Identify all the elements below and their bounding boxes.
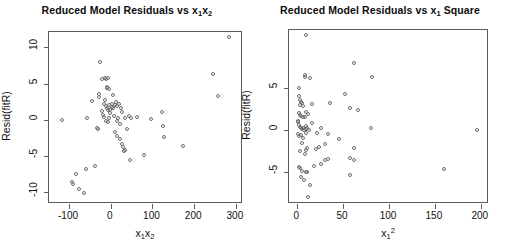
data-point	[303, 152, 307, 156]
y-tick-mark	[284, 88, 289, 89]
data-point	[123, 148, 127, 152]
data-point	[60, 118, 64, 122]
y-tick-label: 10	[28, 34, 39, 56]
x-tick-label: 0	[107, 210, 113, 221]
data-points-left	[49, 32, 241, 202]
panel-left-title-prefix: Reduced Model Residuals vs	[42, 4, 192, 16]
y-tick-mark	[44, 47, 49, 48]
x-tick-mark	[297, 204, 298, 209]
panel-left-title: Reduced Model Residuals vs x1x2	[0, 4, 254, 16]
x-tick-mark	[69, 204, 70, 209]
y-tick-label: 5	[268, 75, 279, 97]
y-tick-mark	[284, 172, 289, 173]
data-point	[181, 144, 185, 148]
data-point	[90, 99, 94, 103]
data-point	[308, 76, 312, 80]
x-tick-mark	[111, 204, 112, 209]
data-point	[118, 137, 122, 141]
x-tick-label: 200	[471, 210, 488, 221]
data-point	[306, 195, 310, 199]
data-point	[314, 147, 318, 151]
data-point	[298, 149, 302, 153]
data-point	[111, 93, 115, 97]
data-point	[356, 108, 360, 112]
data-point	[312, 164, 316, 168]
panel-right-title-sub1: 1	[436, 9, 440, 18]
data-point	[369, 126, 373, 130]
y-tick-mark	[44, 120, 49, 121]
data-point	[326, 132, 330, 136]
y-tick-label: -10	[28, 179, 39, 201]
x-tick-mark	[389, 204, 390, 209]
data-point	[348, 173, 352, 177]
data-point	[317, 145, 321, 149]
data-point	[475, 128, 479, 132]
x-tick-label: 0	[293, 210, 299, 221]
x-tick-label: 200	[185, 210, 202, 221]
data-point	[306, 112, 310, 116]
data-point	[128, 158, 132, 162]
data-point	[84, 167, 88, 171]
panel-right-residuals-vs-x1-square: Reduced Model Residuals vs x1 Square 50-…	[253, 0, 507, 244]
y-axis-title-right: Resid(fitR)	[240, 28, 252, 202]
y-tick-mark	[44, 156, 49, 157]
data-point	[116, 116, 120, 120]
y-axis-title-left: Resid(fitR)	[0, 30, 12, 202]
y-tick-label: -5	[28, 143, 39, 165]
x-tick-label: 50	[337, 210, 348, 221]
data-point	[211, 72, 215, 76]
x-tick-mark	[481, 204, 482, 209]
y-tick-mark	[44, 84, 49, 85]
y-tick-mark	[284, 130, 289, 131]
data-point	[96, 127, 100, 131]
y-tick-label: 0	[268, 117, 279, 139]
plot-area-right	[288, 29, 488, 203]
x-axis-title-right-s1: 1	[386, 232, 390, 241]
x-tick-mark	[236, 204, 237, 209]
data-point	[160, 110, 164, 114]
data-point	[125, 127, 129, 131]
data-points-right	[289, 30, 487, 202]
data-point	[348, 156, 352, 160]
data-point	[300, 141, 304, 145]
data-point	[328, 101, 332, 105]
data-point	[352, 146, 356, 150]
x-tick-label: 300	[227, 210, 244, 221]
panel-right-title-prefix: Reduced Model Residuals vs	[280, 4, 430, 16]
data-point	[310, 121, 314, 125]
data-point	[310, 102, 314, 106]
data-point	[370, 75, 374, 79]
data-point	[106, 120, 110, 124]
data-point	[304, 131, 308, 135]
x-tick-mark	[152, 204, 153, 209]
y-tick-label: -5	[268, 159, 279, 181]
data-point	[85, 116, 89, 120]
data-point	[98, 60, 102, 64]
data-point	[74, 172, 78, 176]
data-point	[297, 94, 301, 98]
data-point	[307, 128, 311, 132]
data-point	[149, 117, 153, 121]
data-point	[93, 164, 97, 168]
plot-area-left	[48, 31, 242, 203]
data-point	[301, 136, 305, 140]
data-point	[302, 178, 306, 182]
data-point	[71, 182, 75, 186]
data-point	[106, 76, 110, 80]
data-point	[308, 183, 312, 187]
panel-right-title: Reduced Model Residuals vs x1 Square	[253, 4, 507, 16]
data-point	[162, 135, 166, 139]
panel-left-title-var1: x	[192, 4, 198, 16]
data-point	[120, 110, 124, 114]
data-point	[297, 86, 301, 90]
x-tick-mark	[435, 204, 436, 209]
data-point	[107, 116, 111, 120]
data-point	[319, 162, 323, 166]
x-axis-title-left-s1: 1	[141, 232, 145, 241]
x-tick-label: -100	[58, 210, 78, 221]
data-point	[303, 75, 307, 79]
y-tick-label: 0	[28, 106, 39, 128]
x-tick-label: 150	[426, 210, 443, 221]
y-tick-mark	[44, 192, 49, 193]
data-point	[118, 122, 122, 126]
